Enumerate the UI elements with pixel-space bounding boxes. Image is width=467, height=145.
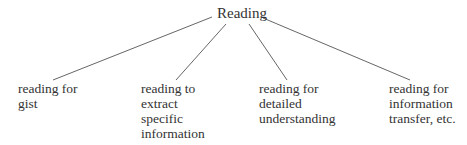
child-line: gist	[18, 96, 108, 111]
child-line: reading for	[259, 81, 349, 96]
child-line: information	[141, 126, 231, 141]
child-node-specific-information: reading to extract specific information	[141, 81, 231, 141]
child-line: specific	[141, 111, 231, 126]
child-node-gist: reading for gist	[18, 81, 108, 111]
connector-detailed-understanding	[249, 24, 287, 80]
child-line: understanding	[259, 111, 349, 126]
connector-information-transfer	[263, 18, 410, 80]
connector-specific-information	[176, 24, 226, 80]
connector-gist	[53, 17, 212, 80]
child-node-information-transfer: reading for information transfer, etc.	[389, 81, 467, 126]
root-node: Reading	[217, 4, 267, 22]
child-line: detailed	[259, 96, 349, 111]
child-node-detailed-understanding: reading for detailed understanding	[259, 81, 349, 126]
child-line: reading for	[389, 81, 467, 96]
child-line: reading to	[141, 81, 231, 96]
child-line: reading for	[18, 81, 108, 96]
child-line: extract	[141, 96, 231, 111]
child-line: information	[389, 96, 467, 111]
child-line: transfer, etc.	[389, 111, 467, 126]
reading-tree-diagram: Reading reading for gist reading to extr…	[0, 0, 467, 145]
